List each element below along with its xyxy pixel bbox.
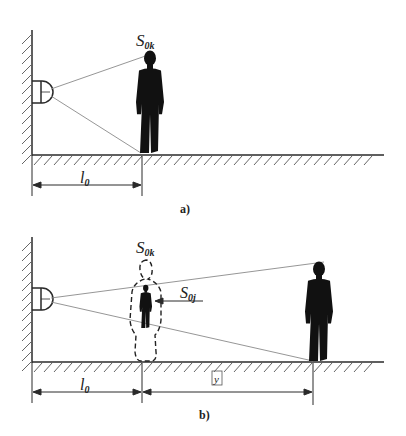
label-l0-b: l0 xyxy=(80,376,89,395)
wall-b xyxy=(22,237,32,371)
wall-a xyxy=(22,30,32,164)
person-silhouette-far xyxy=(305,262,333,361)
label-s0j: S0j xyxy=(180,284,196,303)
label-s0k-a: S0k xyxy=(136,31,155,51)
caption-a: a) xyxy=(180,202,190,216)
dimension-y xyxy=(143,363,313,405)
ground-b xyxy=(32,362,384,372)
label-l0-a: l0 xyxy=(80,169,89,188)
ground-a xyxy=(32,155,384,165)
caption-b: b) xyxy=(199,408,210,422)
person-silhouette-near xyxy=(139,285,152,328)
camera-icon xyxy=(32,81,53,103)
label-y: y xyxy=(213,373,219,385)
camera-icon-b xyxy=(32,288,53,310)
panel-b: S0k S0j l0 y b) xyxy=(22,237,384,422)
panel-a: S0k l0 a) xyxy=(22,30,384,216)
camera-distance-diagram: S0k l0 a) xyxy=(0,0,406,436)
pointer-s0j xyxy=(155,298,203,304)
person-silhouette-a xyxy=(136,50,164,153)
label-s0k-b: S0k xyxy=(136,238,155,258)
view-rays-b xyxy=(51,262,324,361)
